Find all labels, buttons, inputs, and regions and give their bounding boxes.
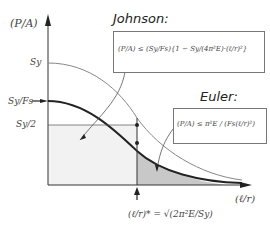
euler-title: Euler: bbox=[200, 89, 238, 104]
johnson-title: Johnson: bbox=[113, 11, 169, 26]
euler-pointer bbox=[157, 129, 173, 170]
y-axis-arrow bbox=[45, 14, 51, 26]
tick-sy-half: Sy/2 bbox=[16, 120, 36, 129]
point-lower bbox=[135, 141, 139, 145]
point-upper bbox=[135, 123, 139, 127]
tick-sy: Sy bbox=[30, 58, 41, 67]
johnson-shaded-region bbox=[48, 125, 137, 185]
critical-formula: (ℓ/r)* = √(2π²E/Sy) bbox=[128, 210, 213, 219]
euler-formula-box: (P/A) ≤ π²E / (Fs(ℓ/r)²) bbox=[173, 108, 267, 144]
johnson-formula: (P/A) ≤ (Sy/Fs){1 − Sy/(4π²E)·(ℓ/r)²} bbox=[114, 32, 264, 67]
y-axis-label: (P/A) bbox=[10, 18, 38, 29]
johnson-formula-box: (P/A) ≤ (Sy/Fs){1 − Sy/(4π²E)·(ℓ/r)²} bbox=[113, 31, 265, 73]
euler-formula: (P/A) ≤ π²E / (Fs(ℓ/r)²) bbox=[174, 109, 266, 140]
x-axis-label: (ℓ/r) bbox=[235, 194, 255, 204]
critical-arrow bbox=[134, 187, 140, 195]
tick-sy-fs: Sy/Fs bbox=[8, 97, 33, 106]
